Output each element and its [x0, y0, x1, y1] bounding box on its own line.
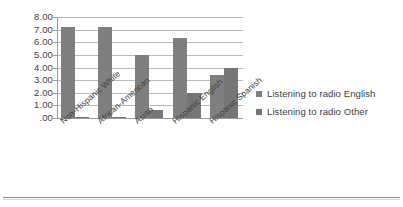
y-axis-tick-labels: .001.002.003.004.005.006.007.008.00	[0, 17, 53, 118]
bar[interactable]	[112, 117, 126, 118]
y-axis-tick-label: 8.00	[1, 12, 53, 22]
bar-group	[131, 17, 168, 118]
y-axis-tick-label: 2.00	[1, 88, 53, 98]
y-axis-tick-label: 1.00	[1, 100, 53, 110]
square-marker-icon	[256, 91, 262, 97]
y-axis-tick-label: 3.00	[1, 75, 53, 85]
bar-chart-figure: .001.002.003.004.005.006.007.008.00 Non-…	[0, 0, 403, 207]
y-axis-tick-label: 7.00	[1, 25, 53, 35]
page-divider	[3, 197, 400, 198]
bar[interactable]	[75, 117, 89, 118]
legend-item-english[interactable]: Listening to radio English	[256, 88, 401, 99]
y-axis-tick-label: 4.00	[1, 63, 53, 73]
legend-item-label: Listening to radio English	[267, 88, 376, 99]
square-marker-icon	[256, 109, 262, 115]
y-axis-tick-label: .00	[1, 113, 53, 123]
y-axis-tick-label: 5.00	[1, 50, 53, 60]
x-axis-category-labels: Non-Hispanic WhiteAfrican-AmericanAsianH…	[57, 119, 257, 199]
y-axis-tick-label: 6.00	[1, 37, 53, 47]
legend-item-label: Listening to radio Other	[267, 106, 368, 117]
legend-item-other[interactable]: Listening to radio Other	[256, 106, 401, 117]
chart-legend: Listening to radio English Listening to …	[256, 88, 401, 124]
page-divider-shadow	[3, 199, 400, 200]
